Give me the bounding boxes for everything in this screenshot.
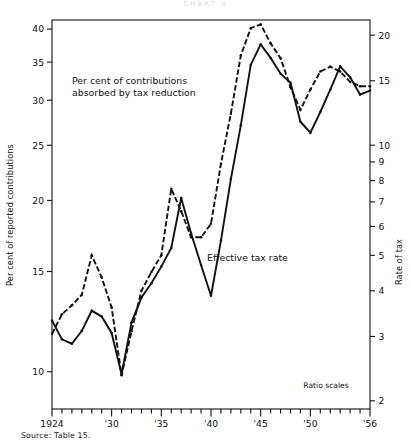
data-point [259,23,262,26]
x-axis-tick-label: '35 [154,418,168,429]
right-axis-title: Rate of tax [394,239,404,285]
data-point [190,236,193,239]
data-point [81,330,84,333]
right-axis-tick-label: 6 [379,221,385,232]
data-point [269,42,272,45]
x-axis-tick-label: '45 [254,418,268,429]
data-point [91,309,94,312]
data-point [230,178,233,181]
data-point [160,265,163,268]
data-point [349,81,352,84]
data-point [100,276,103,279]
data-point [299,120,302,123]
data-point [130,330,133,333]
data-point [309,131,312,134]
right-axis-tick-label: 5 [379,250,385,261]
data-point [170,188,173,191]
annotation-effective-tax-rate: Effective tax rate [207,252,288,263]
data-point [339,70,342,73]
data-point [180,210,183,213]
annotation-contributions-absorbed-line2: absorbed by tax reduction [72,87,196,98]
right-axis-tick-label: 3 [379,331,385,342]
data-point [220,239,223,242]
right-axis-tick-label: 20 [379,30,391,41]
data-point [339,65,342,68]
data-point [289,81,292,84]
data-point [110,332,113,335]
data-point [120,374,123,377]
left-axis-tick-label: 40 [32,23,44,34]
data-point [230,112,233,115]
left-axis-tick-label: 30 [32,95,44,106]
data-point [279,57,282,60]
data-point [140,290,143,293]
data-point [130,321,133,324]
left-axis-tick-label: 10 [32,366,44,377]
data-point [51,319,54,322]
data-point [150,271,153,274]
x-axis-tick-label: 1924 [40,418,64,429]
data-point [309,88,312,91]
data-point [259,43,262,46]
data-point [71,304,74,307]
left-axis-tick-label: 25 [32,140,44,151]
left-axis-tick-label: 35 [32,57,44,68]
data-point [61,313,64,316]
data-point [51,333,54,336]
data-point [180,197,183,200]
x-axis-tick-label: '40 [204,418,218,429]
right-axis-tick-label: 2 [379,395,385,406]
data-point [100,315,103,318]
data-point [369,89,372,92]
left-axis-tick-label: 15 [32,266,44,277]
data-point [210,294,213,297]
data-point [299,109,302,112]
data-point [289,86,292,89]
chart-figure: 40353025201510201510987654321924'30'35'4… [0,0,411,447]
right-axis-tick-label: 8 [379,175,385,186]
data-point [279,72,282,75]
data-point [61,338,64,341]
data-point [240,54,243,57]
data-point [369,85,372,88]
data-point [329,65,332,68]
left-axis-title: Per cent of reported contributions [5,144,15,286]
right-axis-tick-label: 9 [379,156,385,167]
right-axis-tick-label: 15 [379,75,391,86]
chart-svg: 40353025201510201510987654321924'30'35'4… [0,0,411,447]
x-axis-tick-label: '30 [105,418,119,429]
data-point [200,264,203,267]
data-point [110,306,113,309]
data-point [91,254,94,257]
data-point [71,342,74,345]
data-point [329,88,332,91]
source-note: Source: Table 15. [21,431,90,440]
data-point [359,85,362,88]
data-point [319,111,322,114]
right-axis-tick-label: 7 [379,196,385,207]
data-point [319,70,322,73]
data-point [250,27,253,30]
right-axis-tick-label: 4 [379,285,385,296]
data-point [349,76,352,79]
data-point [200,236,203,239]
annotation-contributions-absorbed-line1: Per cent of contributions [72,75,187,86]
data-point [269,57,272,60]
data-point [250,64,253,67]
left-axis-tick-label: 20 [32,195,44,206]
data-point [220,162,223,165]
right-axis-tick-label: 10 [379,140,391,151]
ratio-scales-note: Ratio scales [303,381,348,390]
data-point [210,222,213,225]
data-point [359,93,362,96]
data-point [170,247,173,250]
data-point [240,124,243,127]
x-axis-tick-label: '50 [303,418,317,429]
x-axis-tick-label: '56 [363,418,377,429]
data-point [160,254,163,257]
data-point [81,294,84,297]
data-point [150,282,153,285]
